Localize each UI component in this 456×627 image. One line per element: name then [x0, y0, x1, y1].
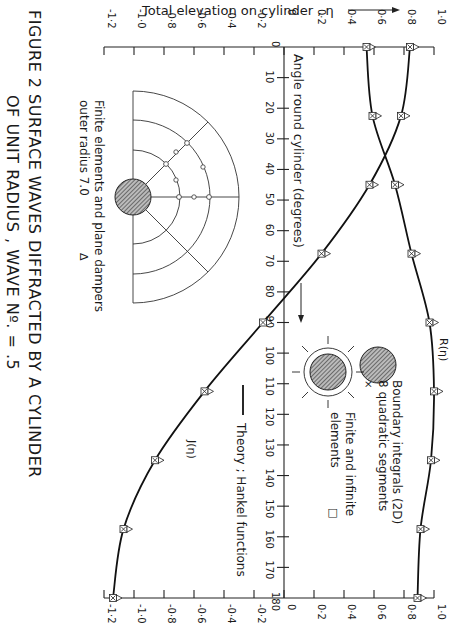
data-point-marker — [110, 595, 123, 602]
elevation-tick-label: -0·4 — [226, 604, 237, 624]
j-curve-label: J(η) — [185, 439, 198, 459]
data-point-marker — [408, 250, 421, 257]
elevation-tick-label: 0·6 — [376, 604, 387, 620]
elevation-tick-label: 0·8 — [406, 604, 417, 620]
r-curve-label: R(η) — [437, 338, 450, 361]
data-point-marker — [392, 181, 405, 188]
legend-theory: Theory ; Hankel functions — [234, 422, 248, 577]
inset-mesh-diagram: Finite elements and plane dampers outer … — [77, 91, 239, 312]
elevation-tick-label: 0·4 — [346, 9, 357, 25]
elevation-tick-label: -1·2 — [106, 9, 117, 29]
data-point-marker — [120, 526, 133, 533]
data-point-marker — [407, 44, 420, 51]
angle-tick-label: 40 — [264, 162, 275, 175]
legend-square-marker: □ — [327, 508, 340, 518]
angle-tick-label: 60 — [264, 224, 275, 237]
angle-tick-label: 180 — [270, 592, 281, 611]
elevation-tick-label: 0·2 — [316, 9, 327, 25]
data-point-marker — [201, 388, 214, 395]
angle-tick-label: 10 — [264, 71, 275, 84]
data-point-marker — [152, 457, 165, 464]
angle-tick-label: 100 — [264, 346, 275, 365]
elevation-tick-label: 1·0 — [436, 9, 447, 25]
elevation-tick-label: 0·2 — [316, 604, 327, 620]
elevation-tick-label: -0·2 — [256, 604, 267, 624]
angle-axis: 0102030405060708090100110120130140150160… — [264, 41, 289, 611]
legend-boundary-integrals: Boundary integrals (2D) — [390, 380, 404, 524]
data-point-marker — [417, 526, 430, 533]
elevation-tick-label: -0·4 — [226, 9, 237, 29]
data-point-marker — [366, 181, 379, 188]
elevation-tick-label: -1·2 — [106, 604, 117, 624]
data-point-marker — [318, 250, 331, 257]
legend-elements: elements — [328, 412, 342, 468]
angle-tick-label: 150 — [264, 499, 275, 518]
legend-cross-marker: × — [363, 380, 374, 388]
elevation-tick-label: -0·6 — [196, 9, 207, 29]
arrow-down-icon — [298, 283, 304, 323]
data-point-marker — [398, 112, 411, 119]
elevation-tick-label: 0 — [286, 604, 297, 610]
inset-label-1: Finite elements and plane dampers — [92, 100, 106, 312]
chart-figure: Total elevation on cylinder , η -1·2-1·0… — [0, 0, 456, 627]
elevation-tick-label: -1·0 — [136, 9, 147, 29]
inset-triangle-marker: Δ — [77, 253, 90, 261]
data-point-marker — [426, 319, 439, 326]
inset-label-2: outer radius 7.0 — [77, 100, 91, 196]
cylinder-icon-meshed — [292, 336, 364, 408]
angle-tick-label: 30 — [264, 132, 275, 145]
angle-tick-label: 170 — [264, 560, 275, 579]
angle-tick-label: 140 — [264, 469, 275, 488]
elevation-tick-label: 0·4 — [346, 604, 357, 620]
legend-finite-infinite: Finite and infinite — [343, 412, 357, 516]
angle-tick-label: 130 — [264, 438, 275, 457]
x-axis-label: Angle round cylinder (degrees) — [291, 54, 306, 248]
angle-tick-label: 70 — [264, 254, 275, 267]
data-point-marker — [428, 457, 441, 464]
legend: Boundary integrals (2D) 8 quadratic segm… — [234, 336, 404, 577]
elevation-tick-label: -0·2 — [256, 9, 267, 29]
elevation-tick-label: -1·0 — [136, 604, 147, 624]
angle-tick-label: 50 — [264, 193, 275, 206]
angle-tick-label: 110 — [264, 377, 275, 396]
figure-caption-line1: FIGURE 2 SURFACE WAVES DIFFRACTED BY A C… — [25, 10, 44, 478]
angle-tick-label: 20 — [264, 101, 275, 114]
figure-caption-line2: OF UNIT RADIUS , WAVE Nº. = .5 — [3, 95, 22, 370]
data-point-marker — [431, 388, 444, 395]
angle-tick-label: 80 — [264, 285, 275, 298]
data-point-marker — [369, 112, 382, 119]
legend-quadratic-segments: 8 quadratic segments — [376, 380, 390, 511]
elevation-tick-label: -0·8 — [166, 604, 177, 624]
cylinder-icon-plain — [360, 347, 396, 383]
angle-tick-label: 120 — [264, 407, 275, 426]
data-point-marker — [414, 595, 427, 602]
elevation-tick-label: -0·6 — [196, 604, 207, 624]
elevation-tick-label: 0·8 — [406, 9, 417, 25]
elevation-tick-label: 0 — [286, 9, 297, 15]
angle-tick-label: 160 — [264, 530, 275, 549]
elevation-tick-label: -0·8 — [166, 9, 177, 29]
elevation-tick-label: 0·6 — [376, 9, 387, 25]
angle-tick-label: 0 — [270, 41, 281, 47]
elevation-tick-label: 1·0 — [436, 604, 447, 620]
